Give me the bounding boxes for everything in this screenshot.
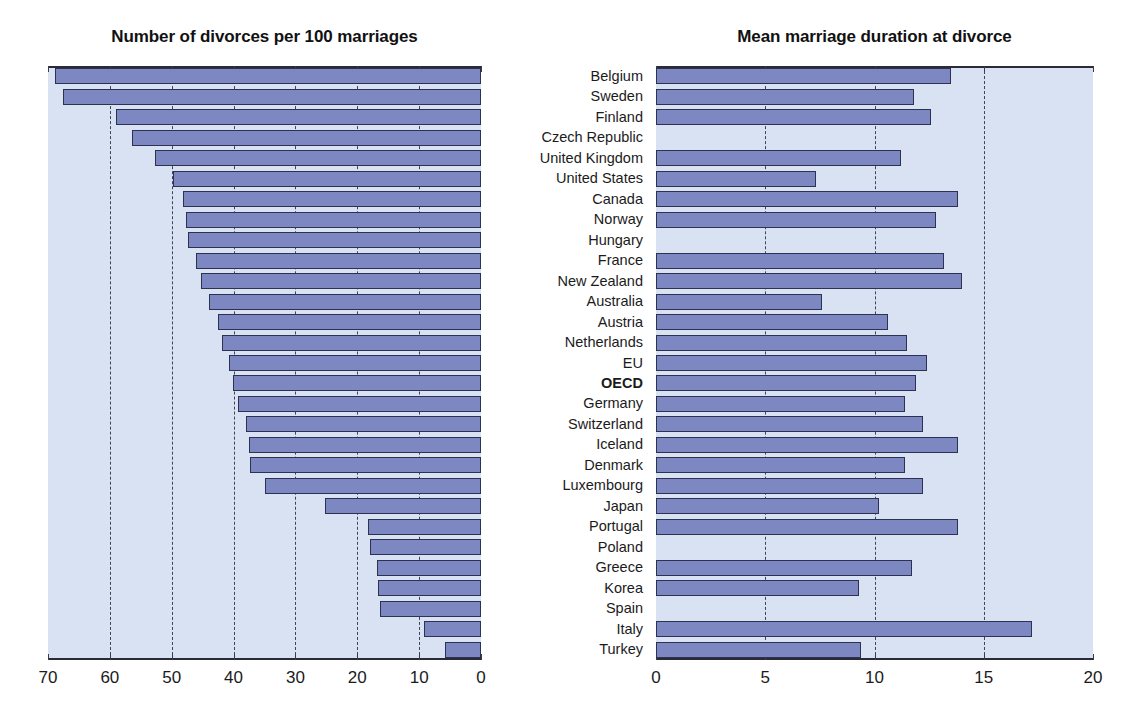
bar-right-canada	[656, 191, 958, 207]
category-label-luxembourg: Luxembourg	[489, 478, 643, 493]
bar-left-canada	[183, 191, 481, 207]
bar-right-netherlands	[656, 335, 907, 351]
category-label-canada: Canada	[489, 192, 643, 207]
bar-left-finland	[116, 109, 481, 125]
bar-left-greece	[377, 560, 481, 576]
category-label-germany: Germany	[489, 396, 643, 411]
bar-right-new-zealand	[656, 273, 962, 289]
bar-right-sweden	[656, 89, 914, 105]
bar-left-germany	[238, 396, 481, 412]
category-label-denmark: Denmark	[489, 458, 643, 473]
tick-left-bottom-30	[295, 654, 296, 660]
category-label-belgium: Belgium	[489, 69, 643, 84]
left-chart-plot-area	[48, 66, 481, 660]
tick-right-bottom-15	[984, 654, 985, 660]
category-label-turkey: Turkey	[489, 642, 643, 657]
axis-tick-label-left-40: 40	[214, 668, 254, 688]
axis-tick-label-left-50: 50	[152, 668, 192, 688]
bar-left-netherlands	[222, 335, 481, 351]
right-chart-plot-area	[656, 66, 1093, 660]
bar-right-switzerland	[656, 416, 923, 432]
bar-right-japan	[656, 498, 879, 514]
tick-left-bottom-40	[234, 654, 235, 660]
bar-right-norway	[656, 212, 936, 228]
gridline-right-15	[984, 66, 985, 660]
bar-right-austria	[656, 314, 888, 330]
bar-right-germany	[656, 396, 905, 412]
bar-left-eu	[229, 355, 481, 371]
category-label-netherlands: Netherlands	[489, 335, 643, 350]
category-label-oecd: OECD	[489, 376, 643, 391]
bar-left-australia	[209, 294, 481, 310]
axis-tick-label-right-5: 5	[745, 668, 785, 688]
bar-left-sweden	[63, 89, 481, 105]
axis-tick-label-left-60: 60	[90, 668, 130, 688]
bar-left-hungary	[188, 232, 481, 248]
bar-left-korea	[378, 580, 481, 596]
bar-left-italy	[424, 621, 481, 637]
bar-right-oecd	[656, 375, 916, 391]
left-axis-bottom-line	[48, 658, 481, 660]
axis-tick-label-right-15: 15	[964, 668, 1004, 688]
category-label-iceland: Iceland	[489, 437, 643, 452]
bar-left-luxembourg	[265, 478, 482, 494]
axis-tick-label-right-0: 0	[636, 668, 676, 688]
tick-left-bottom-20	[357, 654, 358, 660]
category-label-czech-republic: Czech Republic	[489, 130, 643, 145]
bar-left-czech-republic	[132, 130, 481, 146]
category-label-japan: Japan	[489, 499, 643, 514]
bar-left-switzerland	[246, 416, 481, 432]
category-label-column: BelgiumSwedenFinlandCzech RepublicUnited…	[489, 66, 649, 660]
right-chart-title: Mean marriage duration at divorce	[656, 27, 1093, 47]
axis-tick-label-left-30: 30	[275, 668, 315, 688]
bar-left-turkey	[445, 642, 481, 658]
axis-tick-label-left-10: 10	[399, 668, 439, 688]
tick-left-top-70	[48, 66, 49, 72]
bar-left-portugal	[368, 519, 481, 535]
tick-right-bottom-20	[1093, 654, 1094, 660]
gridline-left-60	[110, 66, 111, 660]
category-label-austria: Austria	[489, 315, 643, 330]
category-label-korea: Korea	[489, 581, 643, 596]
bar-right-united-kingdom	[656, 150, 901, 166]
category-label-poland: Poland	[489, 540, 643, 555]
bar-left-spain	[380, 601, 481, 617]
bar-right-korea	[656, 580, 859, 596]
tick-right-top-20	[1093, 66, 1094, 72]
axis-tick-label-left-70: 70	[28, 668, 68, 688]
bar-left-norway	[186, 212, 481, 228]
tick-left-bottom-70	[48, 654, 49, 660]
bar-left-belgium	[55, 68, 481, 84]
bar-left-new-zealand	[201, 273, 481, 289]
category-label-italy: Italy	[489, 622, 643, 637]
category-label-hungary: Hungary	[489, 233, 643, 248]
bar-right-portugal	[656, 519, 958, 535]
bar-right-finland	[656, 109, 931, 125]
bar-right-belgium	[656, 68, 951, 84]
bar-right-italy	[656, 621, 1032, 637]
category-label-new-zealand: New Zealand	[489, 274, 643, 289]
category-label-norway: Norway	[489, 212, 643, 227]
bar-right-france	[656, 253, 944, 269]
bar-left-austria	[218, 314, 482, 330]
bar-right-eu	[656, 355, 927, 371]
bar-right-luxembourg	[656, 478, 923, 494]
bar-left-denmark	[250, 457, 481, 473]
tick-left-bottom-0	[481, 654, 482, 660]
left-chart-title: Number of divorces per 100 marriages	[48, 27, 481, 47]
category-label-portugal: Portugal	[489, 519, 643, 534]
category-label-sweden: Sweden	[489, 89, 643, 104]
tick-right-top-15	[984, 66, 985, 72]
category-label-united-kingdom: United Kingdom	[489, 151, 643, 166]
bar-left-poland	[370, 539, 481, 555]
category-label-switzerland: Switzerland	[489, 417, 643, 432]
category-label-spain: Spain	[489, 601, 643, 616]
bar-left-iceland	[249, 437, 481, 453]
tick-right-bottom-10	[875, 654, 876, 660]
tick-left-bottom-50	[172, 654, 173, 660]
axis-tick-label-right-10: 10	[855, 668, 895, 688]
category-label-eu: EU	[489, 356, 643, 371]
chart-page: Number of divorces per 100 marriages Bel…	[0, 0, 1138, 724]
tick-left-top-0	[481, 66, 482, 72]
category-label-finland: Finland	[489, 110, 643, 125]
